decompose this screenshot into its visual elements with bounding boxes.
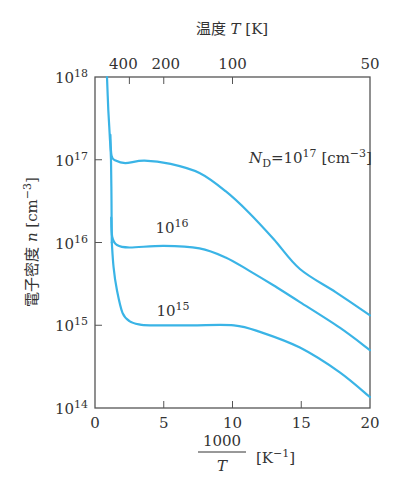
curve-label-nd-1e15: 1015 — [156, 300, 189, 320]
series-line-intrinsic-rise — [107, 77, 112, 243]
y-tick-label: 1016 — [55, 233, 88, 253]
x-axis-title-denominator: T — [217, 457, 228, 475]
series-group — [107, 77, 370, 397]
x-tick-label: 5 — [159, 414, 169, 432]
x-tick-label: 20 — [360, 414, 379, 432]
x-axis-title-unit: [K−1] — [256, 447, 295, 467]
curve-label-nd-1e17: ND=1017 [cm−3] — [248, 147, 372, 170]
chart: 051015204002001005010141015101610171018温… — [0, 0, 399, 501]
top-tick-label: 50 — [360, 55, 379, 73]
series-line-n-d-1e16 — [111, 218, 370, 350]
top-tick-label: 100 — [218, 55, 247, 73]
y-tick-label: 1018 — [55, 67, 88, 87]
x-tick-label: 15 — [292, 414, 311, 432]
x-tick-label: 0 — [90, 414, 100, 432]
y-tick-label: 1015 — [55, 315, 88, 335]
y-tick-label: 1014 — [55, 398, 88, 418]
top-tick-label: 400 — [109, 55, 138, 73]
top-axis-title: 温度 T [K] — [196, 20, 268, 38]
y-axis-title: 電子密度 n [cm−3] — [21, 177, 41, 307]
top-tick-label: 200 — [151, 55, 180, 73]
plot-frame — [95, 77, 370, 408]
x-tick-label: 10 — [223, 414, 242, 432]
y-tick-label: 1017 — [55, 150, 88, 170]
curve-label-nd-1e16: 1016 — [155, 217, 188, 237]
x-axis-title-numerator: 1000 — [203, 432, 241, 450]
